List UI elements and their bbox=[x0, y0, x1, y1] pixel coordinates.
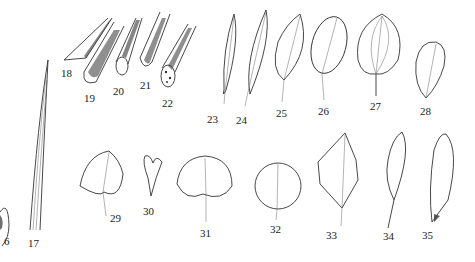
leaf-26-drawing bbox=[305, 13, 353, 100]
leaf-20-drawing bbox=[116, 18, 142, 75]
leaf-21-drawing bbox=[140, 12, 170, 66]
label-24: 24 bbox=[236, 115, 247, 126]
label-25: 25 bbox=[276, 108, 287, 119]
label-19: 19 bbox=[84, 93, 95, 104]
label-32: 32 bbox=[270, 224, 281, 235]
label-33: 33 bbox=[326, 230, 337, 241]
label-35: 35 bbox=[422, 230, 433, 241]
leaf-17-drawing bbox=[30, 60, 48, 230]
leaf-28-drawing bbox=[416, 42, 445, 98]
label-34: 34 bbox=[383, 231, 394, 242]
leaf-33-drawing bbox=[318, 133, 358, 226]
label-31: 31 bbox=[200, 228, 211, 239]
label-18: 18 bbox=[61, 68, 72, 79]
label-28: 28 bbox=[420, 106, 431, 117]
label-23: 23 bbox=[207, 114, 218, 125]
label-29: 29 bbox=[110, 213, 121, 224]
label-16: 6 bbox=[4, 236, 10, 247]
leaf-24-drawing bbox=[245, 10, 267, 106]
label-27: 27 bbox=[370, 101, 381, 112]
leaf-25-drawing bbox=[275, 14, 304, 102]
leaf-35-drawing bbox=[430, 134, 453, 222]
label-17: 17 bbox=[28, 238, 39, 249]
label-26: 26 bbox=[318, 106, 329, 117]
leaf-22-drawing bbox=[161, 24, 196, 87]
label-21: 21 bbox=[140, 80, 151, 91]
label-20: 20 bbox=[113, 86, 124, 97]
leaf-shapes-plate: 6 17 18 19 20 21 22 23 24 25 26 27 28 29… bbox=[0, 0, 475, 262]
leaf-34-drawing bbox=[387, 132, 406, 228]
leaf-23-drawing bbox=[223, 14, 235, 104]
leaf-31-drawing bbox=[177, 156, 232, 222]
label-22: 22 bbox=[162, 98, 173, 109]
label-30: 30 bbox=[143, 206, 154, 217]
leaf-27-drawing bbox=[358, 14, 401, 96]
leaf-30-drawing bbox=[144, 156, 162, 196]
leaf-29-drawing bbox=[80, 151, 123, 216]
leaf-drawings bbox=[0, 0, 475, 262]
leaf-32-drawing bbox=[255, 163, 301, 220]
